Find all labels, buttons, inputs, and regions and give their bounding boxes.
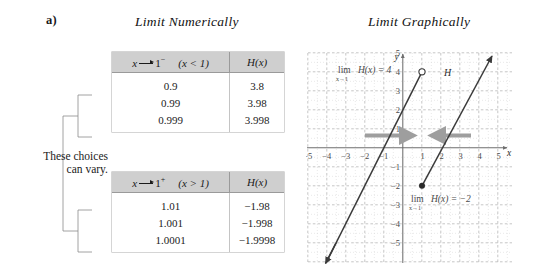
y-tick-label: −4 [391, 219, 401, 229]
figure-root: a) Limit Numerically Limit Graphically T… [0, 0, 555, 275]
x-tick-label: −3 [341, 151, 350, 161]
header-condition: (x > 1) [178, 177, 209, 189]
limit-graph: y x −5 −4 −3 −2 −1 1 2 3 4 5 5 4 3 2 [306, 50, 514, 266]
right-limit-lim: lim [411, 194, 424, 204]
cell-x: 0.99 [112, 94, 230, 111]
y-tick-label: 5 [396, 50, 400, 58]
table-row: 1.001 −1.998 [112, 214, 284, 231]
table-header-row: x1+ (x > 1) H(x) [112, 172, 284, 193]
cell-x: 1.001 [112, 214, 230, 231]
y-tick-label: −3 [391, 200, 400, 210]
y-tick-label: 2 [396, 105, 400, 115]
pad-cell-1 [112, 128, 230, 132]
table-row: 1.01 −1.98 [112, 197, 284, 214]
header-var: x [132, 177, 137, 189]
cell-h: −1.98 [230, 197, 284, 214]
table-row: 0.9 3.8 [112, 77, 284, 94]
cell-x: 1.0001 [112, 231, 230, 248]
left-limit-annotation: lim x→1 − H(x) = 4 [336, 65, 392, 82]
limit-graph-svg: y x −5 −4 −3 −2 −1 1 2 3 4 5 5 4 3 2 [306, 50, 514, 266]
right-limit-table: x1+ (x > 1) H(x) 1.01 −1.98 1.001 −1.998… [112, 172, 284, 252]
left-limit-body: H(x) = 4 [357, 65, 392, 76]
table-pad-row [112, 248, 284, 252]
right-limit-subscript: x→1 [409, 205, 421, 211]
cell-h: 3.998 [230, 111, 284, 128]
pad-cell-2 [230, 128, 284, 132]
part-label: a) [46, 13, 57, 28]
right-limit-body: H(x) = −2 [430, 194, 471, 205]
table-pad-row [112, 128, 284, 132]
x-tick-label: 4 [477, 151, 482, 161]
cell-h: −1.998 [230, 214, 284, 231]
open-circle-endpoint [419, 69, 425, 75]
cell-h: −1.9998 [230, 231, 284, 248]
panel-title-graphic: Limit Graphically [368, 14, 470, 30]
x-tick-label: −5 [306, 151, 312, 161]
panel-title-numeric: Limit Numerically [135, 14, 239, 30]
cell-x: 1.01 [112, 197, 230, 214]
x-tick-label: −4 [322, 151, 332, 161]
y-tick-label: 1 [396, 124, 400, 134]
left-limit-subscript: x→1 [336, 76, 348, 82]
left-limit-lim: lim [338, 65, 351, 75]
cell-h: 3.8 [230, 77, 284, 94]
x-tick-label: 5 [496, 151, 500, 161]
cell-x: 0.999 [112, 111, 230, 128]
table-row: 0.999 3.998 [112, 111, 284, 128]
header-side: + [161, 175, 166, 184]
arrow-right-icon [139, 183, 153, 184]
x-tick-label: −2 [360, 151, 369, 161]
y-tick-label: −2 [391, 181, 400, 191]
right-limit-annotation: lim x→1 + H(x) = −2 [409, 194, 471, 211]
arrow-right-icon [139, 63, 153, 64]
y-tick-label: 3 [396, 86, 400, 96]
y-tick-label: −1 [391, 162, 400, 172]
closed-dot-endpoint [419, 183, 425, 189]
header-var: x [132, 57, 137, 69]
header-cell-approach: x1+ (x > 1) [112, 172, 230, 193]
y-tick-labels: 5 4 3 2 1 −1 −2 −3 −4 −5 [391, 50, 401, 248]
function-curve [326, 56, 493, 264]
header-cell-value: H(x) [230, 52, 284, 73]
table-row: 1.0001 −1.9998 [112, 231, 284, 248]
table-header-row: x1− (x < 1) H(x) [112, 52, 284, 73]
x-tick-label: 3 [458, 151, 462, 161]
header-condition: (x < 1) [178, 57, 209, 69]
pad-cell-2 [230, 248, 284, 252]
choices-annotation-line1: These choices [4, 150, 108, 163]
x-axis-label: x [506, 148, 512, 158]
header-cell-approach: x1− (x < 1) [112, 52, 230, 73]
cell-x: 0.9 [112, 77, 230, 94]
header-cell-value: H(x) [230, 172, 284, 193]
x-tick-label: 1 [420, 151, 424, 161]
choices-annotation-line2: can vary. [4, 163, 108, 176]
pad-cell-1 [112, 248, 230, 252]
table-row: 0.99 3.98 [112, 94, 284, 111]
curve-label-h: H [443, 67, 452, 78]
choices-annotation: These choices can vary. [4, 150, 108, 176]
y-tick-label: −5 [391, 238, 400, 248]
left-limit-table: x1− (x < 1) H(x) 0.9 3.8 0.99 3.98 0.999 [112, 52, 284, 132]
cell-h: 3.98 [230, 94, 284, 111]
h-right-branch [422, 56, 492, 186]
header-side: − [161, 55, 166, 64]
